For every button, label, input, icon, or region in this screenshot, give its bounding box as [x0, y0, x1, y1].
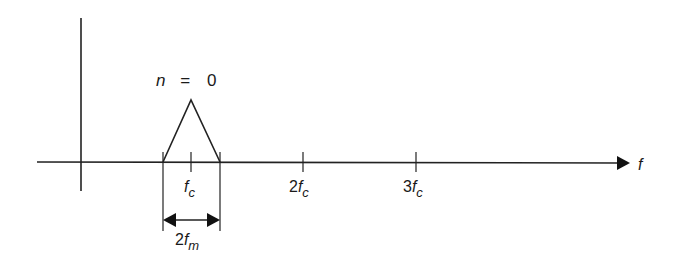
axis-arrowhead-icon	[617, 156, 630, 170]
arrow-left-icon	[163, 213, 176, 227]
bandwidth-label: 2fm	[175, 231, 199, 253]
axis-label-f: f	[638, 156, 644, 173]
arrow-right-icon	[207, 213, 220, 227]
peak-label: n = 0	[156, 71, 216, 90]
tick-label-fc: fc	[184, 178, 195, 200]
frequency-axis	[37, 162, 620, 163]
spectrum-diagram: f n = 0 fc 2fc 3fc 2fm	[0, 0, 673, 266]
tick-label-3fc: 3fc	[403, 178, 423, 200]
tick-label-2fc: 2fc	[289, 178, 309, 200]
